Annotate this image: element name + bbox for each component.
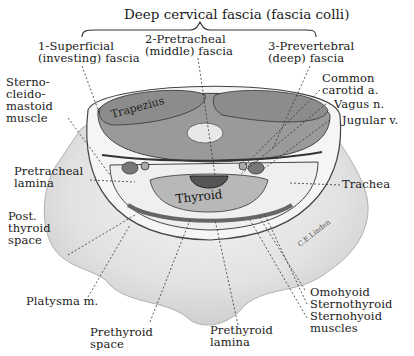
label-superficial-fascia: 1-Superficial (investing) fascia bbox=[38, 40, 140, 64]
label-prevertebral-fascia: 3-Prevertebral (deep) fascia bbox=[268, 40, 354, 64]
label-jugular-vein: Jugular v. bbox=[342, 114, 398, 126]
label-vagus-nerve: Vagus n. bbox=[334, 98, 384, 110]
right-carotid-artery bbox=[239, 162, 247, 170]
vertebra bbox=[187, 123, 223, 143]
label-post-thyroid-space: Post. thyroid space bbox=[8, 210, 51, 246]
diagram-title: Deep cervical fascia (fascia colli) bbox=[124, 6, 349, 22]
label-strap-muscles: Omohyoid Sternothyroid Sternohyoid muscl… bbox=[310, 286, 392, 334]
right-jugular-vein bbox=[248, 162, 264, 174]
label-sternocleidomastoid: Sterno- cleido- mastoid muscle bbox=[6, 76, 53, 124]
label-pretracheal-lamina: Pretracheal lamina bbox=[14, 165, 83, 189]
label-prethyroid-space: Prethyroid space bbox=[90, 326, 153, 350]
left-jugular-vein bbox=[122, 162, 138, 174]
label-pretracheal-fascia: 2-Pretracheal (middle) fascia bbox=[145, 33, 233, 57]
label-trachea: Trachea bbox=[342, 178, 390, 190]
label-common-carotid: Common carotid a. bbox=[322, 72, 379, 96]
label-platysma: Platysma m. bbox=[26, 295, 98, 307]
left-carotid-artery bbox=[141, 162, 149, 170]
label-prethyroid-lamina: Prethyroid lamina bbox=[210, 324, 273, 348]
